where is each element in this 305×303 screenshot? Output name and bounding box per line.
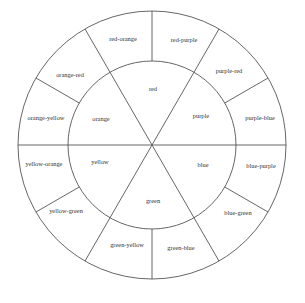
- wheel-lines: [18, 11, 286, 279]
- inner-segment-label: purple: [193, 112, 209, 119]
- outer-divider-line: [225, 187, 268, 212]
- inner-segment-label: green: [146, 197, 161, 204]
- outer-divider-line: [225, 78, 268, 103]
- outer-segment-label: red-orange: [109, 35, 137, 42]
- outer-segment-label: orange-yellow: [28, 114, 65, 121]
- outer-divider-line: [36, 78, 79, 103]
- outer-segment-label: purple-red: [216, 67, 243, 74]
- outer-segment-label: green-yellow: [110, 241, 144, 248]
- outer-segment-label: red-purple: [171, 36, 198, 43]
- inner-segment-label: orange: [92, 115, 110, 122]
- outer-segment-label: green-blue: [167, 244, 194, 251]
- inner-divider-line: [152, 29, 219, 145]
- outer-segment-label: orange-red: [56, 71, 84, 78]
- inner-segment-label: blue: [197, 161, 208, 168]
- outer-segment-label: yellow-orange: [26, 160, 63, 167]
- outer-segment-label: yellow-green: [49, 207, 84, 214]
- inner-segment-label: yellow: [91, 158, 109, 165]
- inner-segment-label: red: [149, 85, 158, 92]
- inner-divider-line: [85, 29, 152, 145]
- outer-segment-label: blue-green: [224, 209, 252, 216]
- outer-segment-label: blue-purple: [246, 162, 276, 169]
- color-wheel-diagram: redpurplebluegreenyelloworangered-purple…: [0, 0, 305, 303]
- outer-segment-label: purple-blue: [245, 114, 275, 121]
